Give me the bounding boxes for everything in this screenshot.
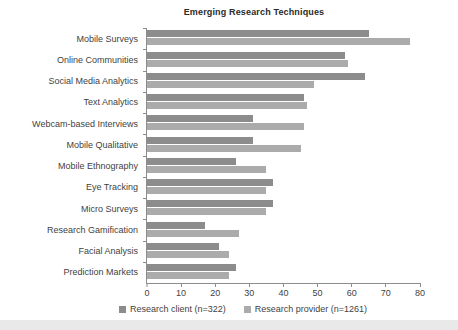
y-axis-label: Online Communities [0,49,143,70]
plot-area [147,28,420,283]
y-axis-label: Text Analytics [0,92,143,113]
page-bottom-strip [0,320,458,330]
x-tick-mark [385,283,386,287]
bar-row [147,241,420,262]
bar-research-provider [147,187,266,194]
bar-research-provider [147,38,410,45]
x-tick-mark [317,283,318,287]
y-axis-tick [143,156,147,157]
x-tick-value: 50 [313,288,323,298]
bar-row [147,262,420,283]
x-axis-ticks: 01020304050607080 [147,283,420,303]
bar-row [147,28,420,49]
x-tick-value: 0 [144,288,149,298]
bar-research-provider [147,166,266,173]
y-axis-label: Social Media Analytics [0,71,143,92]
bar-research-provider [147,230,239,237]
bar-rows [147,28,420,283]
y-axis-tick [143,241,147,242]
y-axis-category-labels: Mobile SurveysOnline CommunitiesSocial M… [0,28,143,283]
bar-research-client [147,30,369,37]
bar-research-client [147,137,253,144]
x-axis-tick: 10 [176,283,186,298]
x-axis-tick: 60 [347,283,357,298]
bar-research-provider [147,123,304,130]
bar-research-provider [147,208,266,215]
legend-swatch-icon [119,306,126,313]
x-tick-value: 30 [244,288,254,298]
y-axis-label: Eye Tracking [0,177,143,198]
x-tick-mark [351,283,352,287]
x-tick-value: 10 [176,288,186,298]
x-axis-tick: 30 [244,283,254,298]
bar-row [147,219,420,240]
y-axis-tick [143,219,147,220]
chart-title: Emerging Research Techniques [0,7,458,17]
x-tick-mark [249,283,250,287]
x-tick-mark [215,283,216,287]
legend-label: Research provider (n=1261) [255,304,367,314]
bar-research-provider [147,251,229,258]
bar-research-client [147,158,236,165]
x-axis-tick: 80 [415,283,425,298]
x-tick-value: 40 [278,288,288,298]
x-tick-value: 70 [381,288,391,298]
y-axis-tick [143,113,147,114]
chart-container: Emerging Research Techniques Mobile Surv… [0,0,458,330]
x-axis-tick: 40 [278,283,288,298]
y-axis-tick [143,92,147,93]
bar-research-client [147,179,273,186]
bar-row [147,92,420,113]
y-axis-tick [143,198,147,199]
y-axis-label: Facial Analysis [0,241,143,262]
bar-row [147,134,420,155]
bar-research-client [147,200,273,207]
x-tick-value: 60 [347,288,357,298]
y-axis-tick [143,134,147,135]
y-axis-label: Mobile Qualitative [0,134,143,155]
bar-research-client [147,94,304,101]
bar-research-client [147,115,253,122]
x-axis-tick: 20 [210,283,220,298]
x-axis-tick: 70 [381,283,391,298]
y-axis-label: Research Gamification [0,219,143,240]
x-tick-mark [419,283,420,287]
bar-research-provider [147,60,348,67]
bar-research-client [147,73,365,80]
bar-research-client [147,52,345,59]
legend-item[interactable]: Research client (n=322) [119,304,226,314]
bar-research-provider [147,145,301,152]
bar-research-provider [147,102,307,109]
x-tick-value: 80 [415,288,425,298]
bar-row [147,113,420,134]
chart-legend: Research client (n=322)Research provider… [0,304,458,314]
y-axis-label: Mobile Surveys [0,28,143,49]
bar-research-client [147,222,205,229]
bar-row [147,49,420,70]
y-axis-tick [143,177,147,178]
bar-research-provider [147,272,229,279]
y-axis-label: Mobile Ethnography [0,156,143,177]
bar-research-provider [147,81,314,88]
y-axis-tick [143,49,147,50]
y-axis-tick [143,28,147,29]
x-tick-mark [146,283,147,287]
bar-research-client [147,243,219,250]
y-axis-tick [143,71,147,72]
y-axis-label: Micro Surveys [0,198,143,219]
x-axis-tick: 0 [144,283,149,298]
bar-row [147,156,420,177]
bar-row [147,71,420,92]
x-axis-tick: 50 [313,283,323,298]
legend-label: Research client (n=322) [130,304,226,314]
legend-swatch-icon [244,306,251,313]
x-tick-value: 20 [210,288,220,298]
y-axis-label: Webcam-based Interviews [0,113,143,134]
legend-item[interactable]: Research provider (n=1261) [244,304,367,314]
bar-row [147,198,420,219]
bar-row [147,177,420,198]
y-axis-label: Prediction Markets [0,262,143,283]
x-tick-mark [181,283,182,287]
bar-research-client [147,264,236,271]
x-tick-mark [283,283,284,287]
